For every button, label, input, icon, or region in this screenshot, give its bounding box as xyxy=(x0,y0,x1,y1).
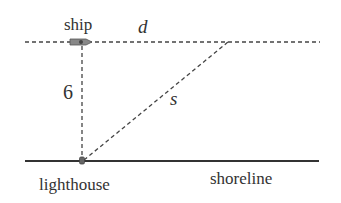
hypotenuse-line xyxy=(84,42,228,160)
distance-label: d xyxy=(138,16,148,37)
hypotenuse-label: s xyxy=(170,88,177,109)
lighthouse-ship-diagram: ship d 6 s lighthouse shoreline xyxy=(0,0,341,203)
lighthouse-label: lighthouse xyxy=(39,175,110,194)
ship-label: ship xyxy=(64,15,92,34)
height-label: 6 xyxy=(63,81,73,103)
lighthouse-icon xyxy=(80,157,85,164)
ship-icon xyxy=(70,39,92,45)
shoreline-label: shoreline xyxy=(210,169,272,188)
